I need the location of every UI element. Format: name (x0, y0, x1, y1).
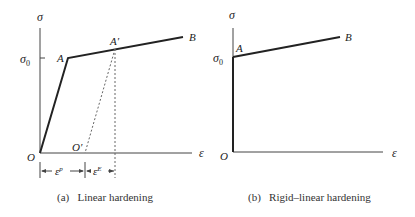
a-elastic-strain-label: εE (93, 165, 102, 177)
panel-linear-hardening: σ σ0 A A′ B O′ O ε εp εE (a) Linear hard… (20, 10, 204, 204)
a-unloading-line (85, 49, 115, 153)
a-point-A: A (56, 52, 64, 64)
arrow-left-icon (41, 169, 46, 173)
panel-rigid-linear-hardening: σ σ0 A B O ε (b) Rigid–linear hardening (213, 8, 397, 204)
a-point-A-prime: A′ (109, 35, 120, 47)
b-origin-label: O (220, 150, 228, 162)
a-sigma0-label: σ0 (20, 52, 30, 68)
b-point-B: B (345, 31, 352, 43)
b-sigma-label: σ (229, 8, 236, 22)
a-caption: (a) Linear hardening (57, 191, 153, 204)
b-hardening-segment (233, 37, 340, 57)
a-origin-label: O (27, 151, 35, 163)
a-point-B: B (189, 31, 196, 43)
b-point-A: A (235, 42, 243, 54)
b-epsilon-label: ε (392, 146, 397, 160)
b-caption: (b) Rigid–linear hardening (248, 191, 371, 204)
b-sigma0-label: σ0 (213, 51, 223, 67)
arrow-right-icon (109, 169, 114, 173)
arrow-right-icon (79, 169, 84, 173)
a-sigma-label: σ (37, 10, 44, 24)
a-epsilon-label: ε (199, 146, 204, 160)
arrow-left-icon (86, 169, 91, 173)
diagram-canvas: σ σ0 A A′ B O′ O ε εp εE (a) Linear hard… (0, 0, 415, 217)
a-plastic-strain-label: εp (55, 165, 63, 177)
a-point-O-prime: O′ (72, 141, 83, 153)
